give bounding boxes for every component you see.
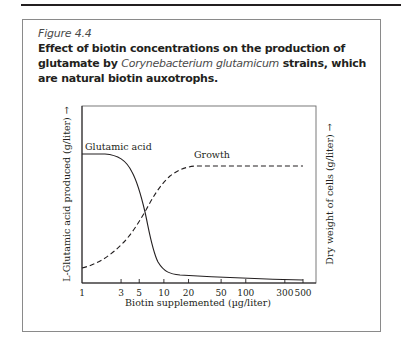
- y-axis-label-right: Dry weight of cells (g/liter) →: [324, 123, 335, 264]
- x-ticks: 135102050100300500: [79, 279, 312, 298]
- x-tick-label: 300: [276, 288, 293, 298]
- x-axis-label: Biotin supplemented (µg/liter): [125, 297, 271, 308]
- chart: 135102050100300500 Glutamic acid Growth …: [0, 0, 401, 350]
- x-tick-label: 3: [118, 288, 124, 298]
- growth-curve: [82, 166, 303, 268]
- glutamic-acid-curve: [82, 154, 303, 280]
- glutamic-acid-label: Glutamic acid: [85, 141, 152, 152]
- growth-label: Growth: [194, 149, 230, 160]
- plot-frame: [82, 106, 316, 283]
- x-tick-label: 1: [79, 288, 85, 298]
- x-tick-label: 500: [294, 288, 311, 298]
- y-axis-label-left: L-Glutamic acid produced (g/liter) →: [61, 106, 72, 282]
